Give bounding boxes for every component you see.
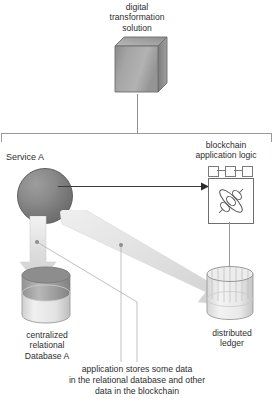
callout-dot-blockchain xyxy=(119,243,123,247)
callout-dot-database xyxy=(35,240,39,244)
cube-shape-icon xyxy=(110,34,170,96)
chain-connector-2 xyxy=(234,170,242,171)
diagram-caption: application stores some data in the rela… xyxy=(14,364,260,397)
service-a-label: Service A xyxy=(6,152,90,162)
chain-block-3-icon xyxy=(242,166,253,177)
chain-block-2-icon xyxy=(225,166,236,177)
section-divider xyxy=(1,133,272,134)
digital-transformation-solution-label: digital transformation solution xyxy=(76,2,198,33)
chain-block-1-icon xyxy=(208,166,219,177)
callout-leader-lines xyxy=(0,230,274,380)
divider-tick-left xyxy=(1,133,2,142)
digital-transformation-solution-cube xyxy=(110,34,170,96)
cube-connector-line xyxy=(137,94,138,134)
diagram-canvas: digital transformation solution xyxy=(0,0,274,403)
blockchain-chain-links-icon xyxy=(208,165,252,176)
blockchain-application-logic-label: blockchain application logic xyxy=(178,140,274,161)
arrow-service-to-blockchain-icon xyxy=(58,181,210,192)
chain-connector-1 xyxy=(217,170,225,171)
